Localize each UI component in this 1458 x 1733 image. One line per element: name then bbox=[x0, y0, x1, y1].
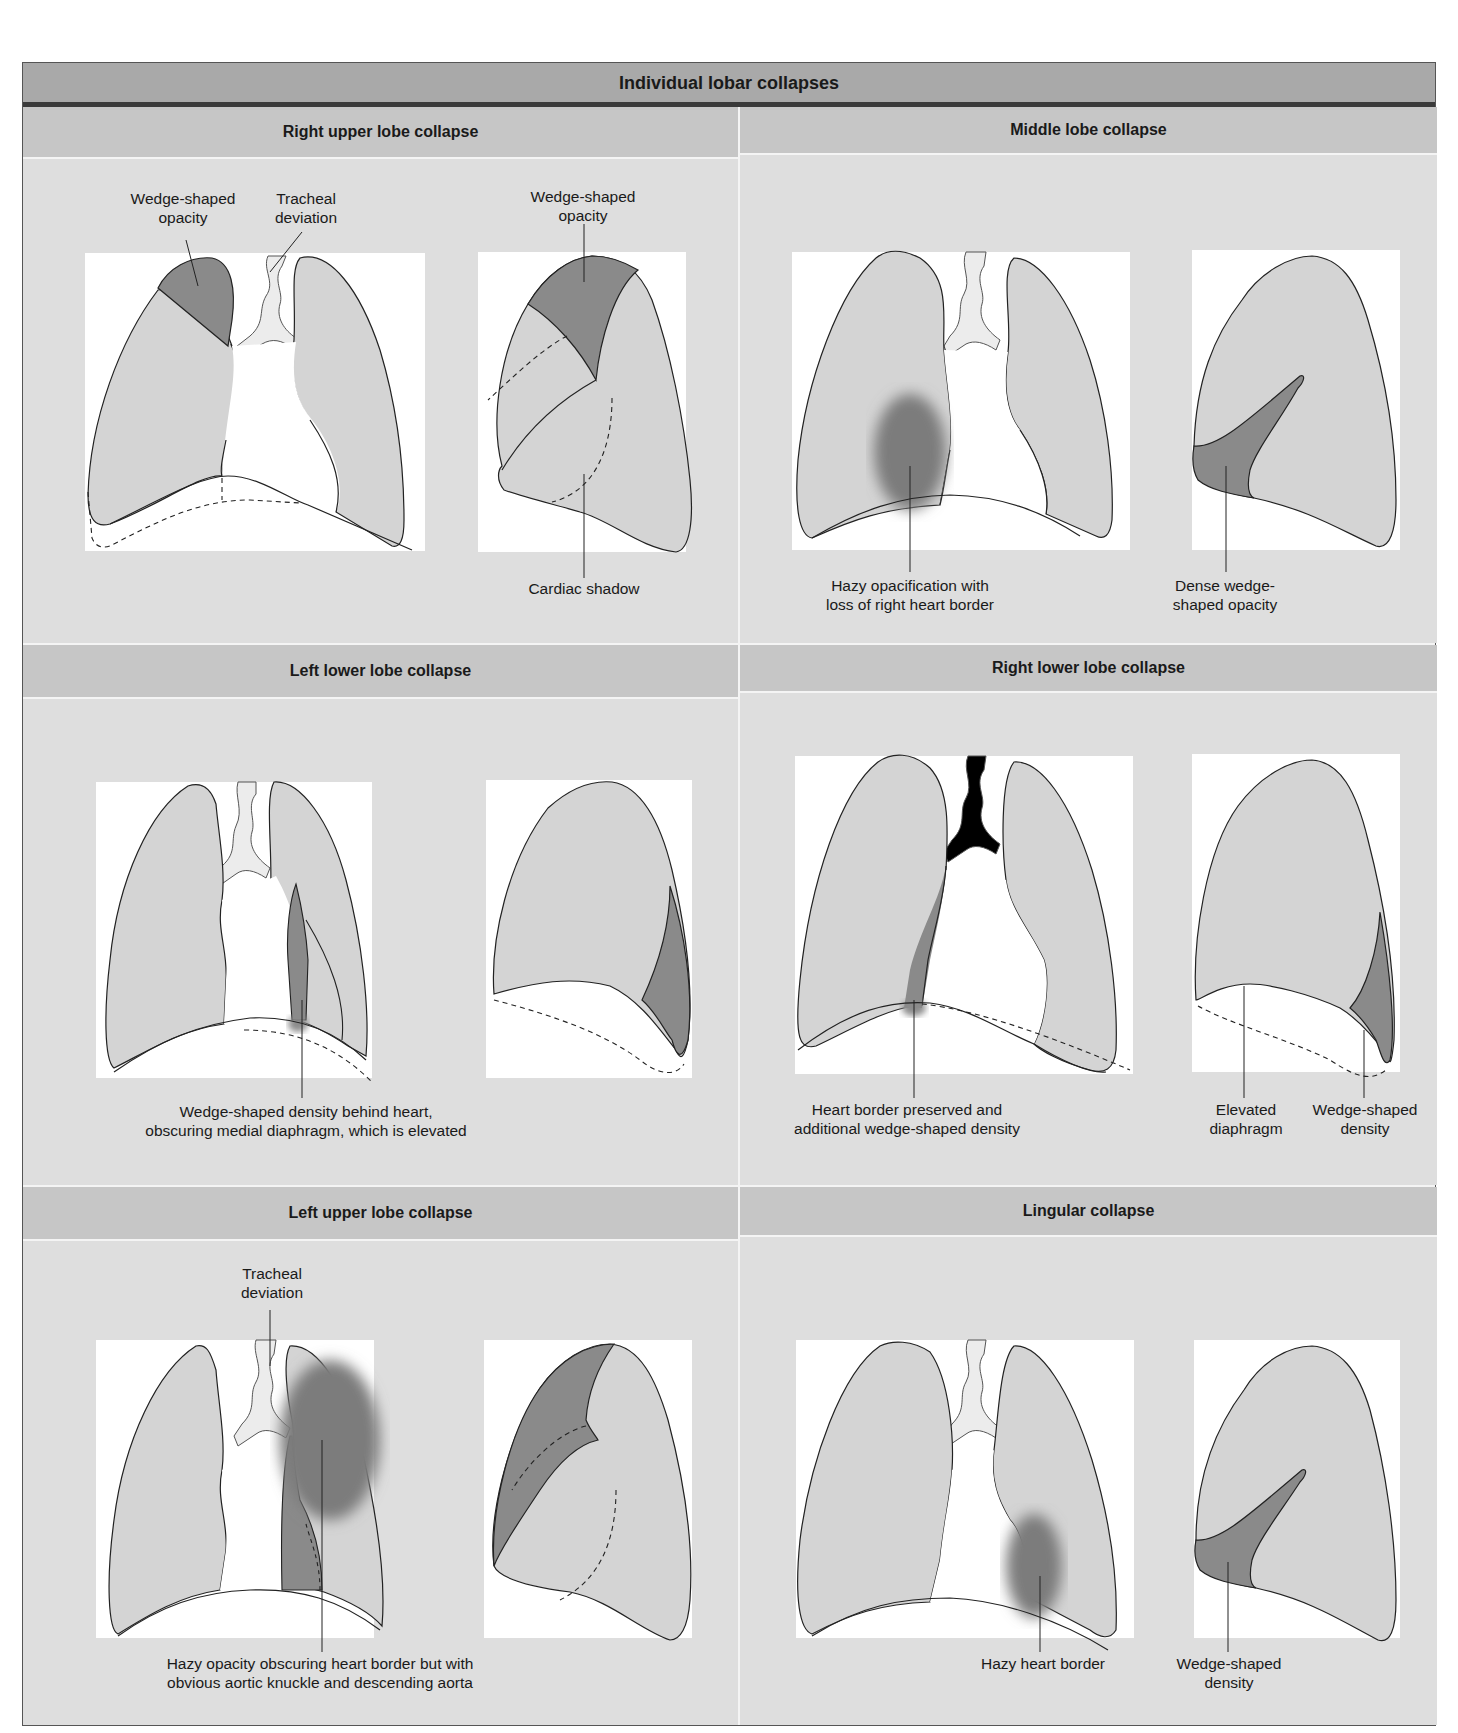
label-text: Heart border preserved and additional we… bbox=[794, 1101, 1020, 1137]
label-text: Wedge-shaped opacity bbox=[131, 190, 236, 226]
ling-lateral-view bbox=[1194, 1340, 1400, 1652]
label-text: Tracheal deviation bbox=[275, 190, 337, 226]
label-rul-tracheal-deviation: Tracheal deviation bbox=[246, 189, 366, 227]
ling-frontal-view bbox=[796, 1340, 1134, 1652]
rll-lateral-view bbox=[1192, 754, 1400, 1098]
label-text: Cardiac shadow bbox=[528, 580, 639, 597]
label-rul-wedge-opacity: Wedge-shaped opacity bbox=[108, 189, 258, 227]
lll-lateral-view bbox=[486, 780, 692, 1078]
lll-frontal-view bbox=[96, 782, 372, 1098]
label-rll-wedge-density: Wedge-shaped density bbox=[1300, 1100, 1430, 1138]
label-ml-dense-wedge: Dense wedge- shaped opacity bbox=[1150, 576, 1300, 614]
ml-frontal-view bbox=[792, 251, 1130, 572]
rll-frontal-view bbox=[795, 755, 1133, 1098]
label-ling-hazy-heart-border: Hazy heart border bbox=[968, 1654, 1118, 1673]
label-lul-tracheal-deviation: Tracheal deviation bbox=[222, 1264, 322, 1302]
label-text: Tracheal deviation bbox=[241, 1265, 303, 1301]
rul-lateral-view bbox=[478, 224, 691, 578]
label-rll-heart-border: Heart border preserved and additional we… bbox=[762, 1100, 1052, 1138]
diagrams-layer bbox=[0, 0, 1458, 1733]
label-rul-lateral-opacity: Wedge-shaped opacity bbox=[508, 187, 658, 225]
label-text: Hazy opacity obscuring heart border but … bbox=[167, 1655, 474, 1691]
label-text: Wedge-shaped density behind heart, obscu… bbox=[145, 1103, 466, 1139]
label-text: Wedge-shaped density bbox=[1177, 1655, 1282, 1691]
label-rul-cardiac-shadow: Cardiac shadow bbox=[504, 579, 664, 598]
lul-frontal-view bbox=[96, 1310, 383, 1652]
rul-frontal-view bbox=[85, 232, 425, 551]
label-ling-wedge-density: Wedge-shaped density bbox=[1154, 1654, 1304, 1692]
label-ml-hazy-opacification: Hazy opacification with loss of right he… bbox=[800, 576, 1020, 614]
label-text: Wedge-shaped opacity bbox=[531, 188, 636, 224]
label-text: Dense wedge- shaped opacity bbox=[1173, 577, 1277, 613]
ml-lateral-view bbox=[1192, 250, 1400, 572]
label-text: Hazy opacification with loss of right he… bbox=[826, 577, 994, 613]
lul-lateral-view bbox=[484, 1340, 692, 1640]
label-rll-elevated-diaphragm: Elevated diaphragm bbox=[1196, 1100, 1296, 1138]
label-text: Wedge-shaped density bbox=[1313, 1101, 1418, 1137]
label-text: Elevated diaphragm bbox=[1209, 1101, 1282, 1137]
label-text: Hazy heart border bbox=[981, 1655, 1105, 1672]
label-lul-hazy-opacity: Hazy opacity obscuring heart border but … bbox=[120, 1654, 520, 1692]
label-lll-wedge-density: Wedge-shaped density behind heart, obscu… bbox=[106, 1102, 506, 1140]
